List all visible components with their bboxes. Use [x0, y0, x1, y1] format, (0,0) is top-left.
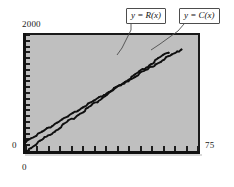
y-axis-min-label: 0 [12, 140, 17, 150]
callout-revenue-text: y = R(x) [131, 10, 161, 20]
callout-cost: y = C(x) [179, 8, 220, 24]
x-axis-max-label: 75 [205, 140, 214, 150]
callout-revenue: y = R(x) [126, 8, 166, 24]
revenue-cost-figure: 2000 0 0 75 y = R(x) y = C(x) [0, 0, 234, 187]
leader-line-revenue [117, 24, 131, 55]
y-axis-max-label: 2000 [22, 19, 41, 29]
leader-line-cost [151, 24, 184, 50]
callout-cost-text: y = C(x) [184, 10, 215, 20]
x-axis-min-label: 0 [22, 162, 27, 172]
